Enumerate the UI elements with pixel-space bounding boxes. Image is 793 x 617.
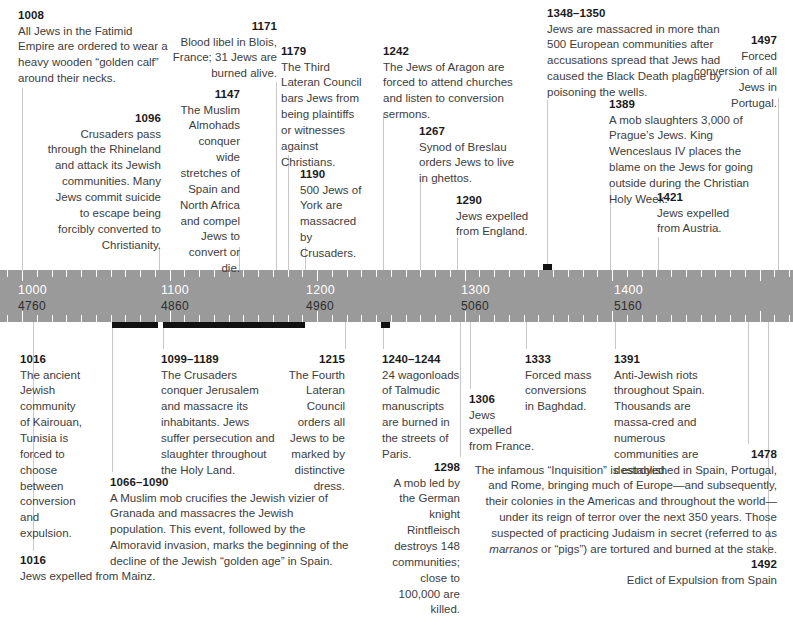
event-text: 24 wagonloads of Talmudic manuscripts ar… [382, 368, 460, 463]
axis-tick [273, 270, 274, 277]
axis-year-gregorian: 1200 [306, 283, 335, 299]
axis-year-hebrew: 5160 [614, 299, 643, 314]
axis-tick [273, 315, 274, 322]
axis-tick [420, 315, 421, 322]
axis-tick [391, 270, 392, 277]
event-text: The Crusaders conquer Jerusalem and mass… [161, 368, 280, 479]
event-year: 1497 [691, 33, 777, 49]
axis-year-hebrew: 4860 [161, 299, 189, 314]
axis-tick [258, 270, 259, 277]
axis-tick [66, 270, 67, 277]
event-text: All Jews in the Fatimid Empire are order… [18, 24, 168, 87]
axis-tick [524, 270, 525, 277]
axis-tick [199, 315, 200, 322]
axis-year-hebrew: 5060 [461, 299, 490, 314]
leader-line-1306 [470, 322, 471, 389]
ev-1096: 1096Crusaders pass through the Rhineland… [44, 111, 161, 253]
axis-tick [258, 315, 259, 322]
event-text: Forced mass conversions in Baghdad. [525, 368, 595, 416]
axis-tick [420, 270, 421, 277]
event-text: The Fourth Lateran Council orders all Je… [288, 368, 345, 495]
event-year: 1333 [525, 352, 595, 368]
axis-tick [37, 315, 38, 322]
axis-tick [553, 270, 554, 277]
event-year: 1492 [560, 557, 777, 573]
axis-tick [745, 270, 746, 277]
axis-year-hebrew: 4960 [306, 299, 335, 314]
event-year: 1298 [376, 460, 460, 476]
ev-1215: 1215The Fourth Lateran Council orders al… [288, 352, 345, 494]
axis-tick [170, 270, 171, 281]
axis-tick [568, 315, 569, 322]
axis-tick [347, 315, 348, 322]
axis-tick [302, 315, 303, 322]
event-text: A Muslim mob crucifies the Jewish vizier… [110, 491, 350, 570]
event-year: 1190 [300, 167, 370, 183]
event-year: 1478 [470, 447, 777, 463]
axis-year-label: 13005060 [461, 283, 490, 314]
event-year: 1290 [456, 193, 534, 209]
event-text: The Jews of Aragon are forced to attend … [383, 60, 518, 123]
event-text: 500 Jews of York are massacred by Crusad… [300, 183, 370, 262]
event-text: Crusaders pass through the Rhineland and… [44, 127, 161, 254]
event-year: 1267 [419, 124, 519, 140]
axis-tick [789, 315, 790, 322]
event-text: The Muslim Almohads conquer wide stretch… [172, 103, 240, 277]
ev-1492: 1492Edict of Expulsion from Spain [560, 557, 777, 588]
event-year: 1215 [288, 352, 345, 368]
axis-tick [789, 270, 790, 277]
axis-tick [361, 270, 362, 277]
axis-tick [155, 315, 156, 322]
ev-1421: 1421Jews expelled from Austria. [657, 190, 737, 237]
axis-year-gregorian: 1100 [161, 283, 189, 299]
axis-tick [37, 270, 38, 277]
axis-tick [671, 315, 672, 322]
axis-tick [332, 315, 333, 322]
leader-line-1171 [276, 82, 277, 270]
axis-tick [302, 270, 303, 277]
axis-tick [509, 315, 510, 322]
axis-tick [96, 270, 97, 277]
event-text: Edict of Expulsion from Spain [560, 573, 777, 589]
axis-tick [450, 315, 451, 322]
axis-tick [656, 315, 657, 322]
axis-tick [406, 270, 407, 277]
leader-line-10661090 [112, 328, 113, 472]
axis-tick [7, 270, 8, 277]
axis-year-gregorian: 1300 [461, 283, 490, 299]
range-1099-1189 [163, 322, 305, 328]
axis-tick [406, 315, 407, 322]
axis-tick [701, 315, 702, 322]
axis-tick [494, 315, 495, 322]
ev-1099-1189: 1099–1189The Crusaders conquer Jerusalem… [161, 352, 280, 479]
axis-tick [568, 270, 569, 277]
axis-year-label: 14005160 [614, 283, 643, 314]
event-text: Forced conversion of all Jews in Portuga… [691, 49, 777, 112]
event-text: Synod of Breslau orders Jews to live in … [419, 140, 519, 188]
leader-line-1298 [460, 322, 461, 457]
axis-tick [538, 270, 539, 277]
ev-1290: 1290Jews expelled from England. [456, 193, 534, 240]
event-year: 1016 [20, 352, 82, 368]
event-year: 1147 [172, 87, 240, 103]
event-text: The Third Lateran Council bars Jews from… [281, 60, 366, 171]
ev-1179: 1179The Third Lateran Council bars Jews … [281, 44, 366, 171]
axis-year-gregorian: 1400 [614, 283, 643, 299]
axis-tick [435, 270, 436, 277]
axis-tick [494, 270, 495, 277]
axis-tick [612, 270, 613, 281]
axis-tick [553, 315, 554, 322]
axis-tick [450, 270, 451, 277]
axis-tick [509, 270, 510, 277]
axis-tick [686, 270, 687, 277]
axis-tick [642, 270, 643, 277]
ev-1171: 1171Blood libel in Blois, France; 31 Jew… [160, 19, 277, 82]
axis-tick [332, 270, 333, 277]
event-year: 1096 [44, 111, 161, 127]
axis-tick [7, 315, 8, 322]
axis-tick [627, 315, 628, 322]
event-year: 1171 [160, 19, 277, 35]
leader-line-10991189 [163, 328, 164, 349]
ev-1147: 1147The Muslim Almohads conquer wide str… [172, 87, 240, 277]
axis-tick [243, 315, 244, 322]
